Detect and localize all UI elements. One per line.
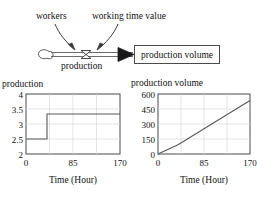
ytick-label-4: 4	[19, 90, 24, 100]
diagram-label-working-time-value: working time value	[92, 12, 166, 22]
ytick-label-150: 150	[142, 135, 156, 145]
chart-production: 4 3.5 3 2.5 2 0 85 170 Time (Hour)	[0, 90, 126, 197]
stock-and-flow-diagram: workers working time value production pr…	[0, 0, 257, 78]
arrowhead-working-time	[97, 43, 104, 50]
chart-title-production: production	[2, 80, 43, 90]
xtick-label-85: 85	[200, 158, 210, 168]
xtick-label-0: 0	[24, 158, 29, 168]
xtick-label-170: 170	[243, 158, 257, 168]
stock-box-production-volume: production volume	[134, 45, 220, 64]
ytick-label-2.5: 2.5	[12, 135, 24, 145]
xtick-label-85: 85	[69, 158, 79, 168]
cloud-source-icon	[38, 50, 53, 59]
ytick-label-2: 2	[19, 150, 24, 160]
xaxis-title-production: Time (Hour)	[49, 175, 97, 186]
arrowhead-workers	[69, 43, 76, 50]
ytick-label-0: 0	[151, 150, 156, 160]
flow-arrowhead-into-stock	[118, 48, 134, 62]
ytick-label-3.5: 3.5	[12, 105, 24, 115]
ytick-label-3: 3	[19, 120, 24, 130]
figure-root: workers working time value production pr…	[0, 0, 257, 197]
xtick-label-0: 0	[156, 158, 161, 168]
ytick-label-450: 450	[142, 105, 156, 115]
chart-production-volume: 600 450 300 150 0 0 85 170 Time (Hour)	[126, 88, 257, 197]
ytick-label-600: 600	[142, 90, 156, 100]
diagram-label-production-flow: production	[61, 62, 102, 72]
flow-valve-icon	[81, 51, 91, 59]
stock-box-label: production volume	[135, 46, 219, 63]
ytick-label-300: 300	[142, 120, 156, 130]
diagram-label-workers: workers	[36, 12, 67, 22]
xaxis-title-production-volume: Time (Hour)	[180, 175, 228, 186]
